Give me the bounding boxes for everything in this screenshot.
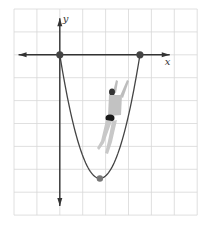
y-axis-arrow-up (57, 18, 62, 26)
x-axis-label: x (165, 56, 171, 67)
point-origin (56, 51, 63, 58)
point-x-intercept (136, 51, 143, 58)
diver-figure (97, 80, 129, 154)
diver-torso (108, 95, 122, 116)
grid (14, 9, 197, 215)
point-vertex (97, 175, 103, 181)
y-axis-label: y (62, 13, 69, 24)
diver-head (109, 89, 115, 96)
y-axis-arrow-down (57, 198, 62, 206)
parabola-diagram: x y (0, 0, 209, 242)
parabola-curve (59, 52, 139, 178)
x-axis-arrow-left (19, 52, 27, 57)
points (56, 51, 143, 181)
